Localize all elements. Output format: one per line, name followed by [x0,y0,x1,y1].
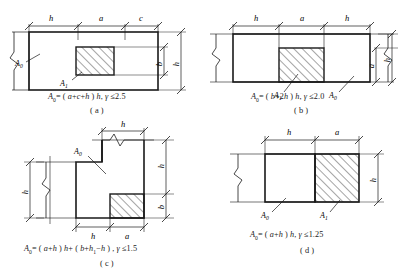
dim-label-b-top-a: a [300,13,304,23]
panel-b: h a h A1 A0 a h A0= ( b+2h ) h, γ ≤2.0 (… [202,0,404,120]
dim-label-c-bottom-h: h [91,231,95,241]
panel-label-b: ( b ) [294,106,308,115]
panel-c: h A0 h h b [14,126,226,278]
dim-label-a-top-c: c [139,13,143,23]
break-symbol-c-left [42,162,50,218]
dim-label-d-right-h: h [368,178,378,182]
break-symbol-b-left [212,34,220,82]
formula-c: A0= ( a+h ) h+ ( b+h1−h ) , γ ≤1.5 [24,244,137,255]
dim-label-a-top-a: a [99,13,103,23]
area-d1-hatched [315,154,359,202]
area-a1-hatched [76,47,114,75]
panel-label-a: ( a ) [90,106,103,115]
dim-label-c-bottom-a: a [125,231,129,241]
dim-label-d-top-a: a [335,127,339,137]
panel-label-d: ( d ) [300,246,314,255]
label-a0-c: A0 [73,147,82,157]
area-d0-rect [265,154,315,202]
dim-label-b-right-h: h [382,58,392,62]
dim-label-b-top-h2: h [345,13,349,23]
dim-label-c-right-h: h [156,164,166,168]
panel-c-drawing: h A0 h h b [14,126,226,278]
break-symbol-d [234,154,242,202]
dim-label-a-right-b: b [154,62,164,66]
dim-label-c-right-b: b [156,205,166,209]
area-b1-hatched [279,48,324,82]
dim-label-c-left-h: h [20,190,30,194]
formula-b: A0= ( b+2h ) h, γ ≤2.0 [251,92,324,103]
panel-label-c: ( c ) [100,259,113,268]
dim-label-a-right-h: h [171,62,181,66]
dim-label-b-right-a: a [366,64,376,68]
panel-d-drawing: h a A0 A1 h [228,130,404,240]
label-a1-d: A1 [319,211,328,221]
panel-d: h a A0 A1 h A0= ( a+h ) h, γ ≤1.25 ( d ) [228,130,404,278]
dim-label-b-top-h1: h [254,13,258,23]
area-c1-hatched [110,194,144,218]
dim-label-d-top-h: h [287,127,291,137]
dim-label-c-top-h: h [121,119,125,129]
label-a0-a: A0 [14,59,23,69]
label-a1-a: A1 [59,79,68,89]
label-a0-d: A0 [260,211,269,221]
panel-a: h a c A0 A1 b h A0= ( a+c+h ) h, γ ≤2.5 [0,0,202,120]
formula-d: A0= ( a+h ) h, γ ≤1.25 [250,230,323,241]
label-a0-b: A0 [328,91,337,101]
dim-label-a-top-h: h [49,13,53,23]
formula-a: A0= ( a+c+h ) h, γ ≤2.5 [48,92,126,103]
